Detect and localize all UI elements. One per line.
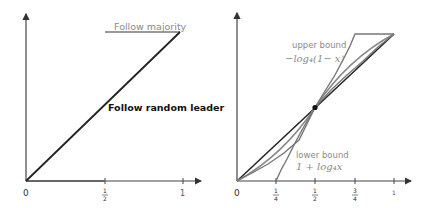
- lower-bound-formula: 1 + log₄x: [296, 161, 343, 172]
- right-tick-label-half-den: 2: [313, 195, 317, 202]
- left-plot: Follow majority Follow random leader 0 1…: [23, 14, 224, 202]
- right-tick-label-three-quarter-num: 3: [353, 187, 357, 194]
- lower-bound-title: lower bound: [296, 150, 349, 160]
- diagram-canvas: Follow majority Follow random leader 0 1…: [0, 0, 426, 208]
- right-tick-label-quarter-den: 4: [274, 195, 278, 202]
- intersection-point: [312, 105, 317, 110]
- right-tick-label-1: 1: [392, 189, 396, 196]
- follow-random-leader-label: Follow random leader: [108, 102, 224, 113]
- left-tick-label-1: 1: [180, 189, 185, 198]
- upper-bound-formula: −log₄(1− x): [285, 53, 344, 64]
- follow-majority-label: Follow majority: [114, 21, 187, 32]
- left-tick-label-0: 0: [23, 188, 29, 198]
- upper-bound-title: upper bound: [292, 40, 346, 50]
- right-tick-label-0: 0: [234, 188, 240, 198]
- left-tick-label-half-num: 1: [103, 187, 107, 194]
- right-tick-label-half-num: 1: [313, 187, 317, 194]
- right-plot: upper bound −log₄(1− x) lower bound 1 + …: [234, 13, 411, 202]
- right-tick-label-three-quarter-den: 4: [353, 195, 357, 202]
- right-tick-label-quarter-num: 1: [274, 187, 278, 194]
- left-tick-label-half-den: 2: [103, 195, 107, 202]
